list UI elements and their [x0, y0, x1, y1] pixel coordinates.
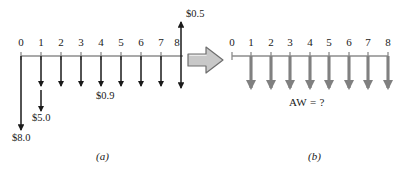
tick-label-a-5: 5	[114, 36, 128, 48]
tick-label-b-3: 3	[283, 36, 297, 48]
tick-label-b-8: 8	[381, 36, 395, 48]
tick-label-b-1: 1	[244, 36, 258, 48]
amount-label-0-5: $0.5	[186, 8, 204, 20]
tick-label-b-2: 2	[264, 36, 278, 48]
panel-a-graphic	[0, 0, 200, 172]
amount-label-5-0: $5.0	[32, 112, 50, 124]
tick-label-b-4: 4	[303, 36, 317, 48]
cashflow-arrows-uniform-a	[61, 56, 161, 86]
tick-label-a-0: 0	[14, 36, 28, 48]
tick-label-a-6: 6	[134, 36, 148, 48]
cash-flow-figure: 0 1 2 3 4 5 6 7 8 $8.0 $5.0 $0.9 $0.5 (a…	[0, 0, 410, 172]
aw-unknown-label: AW = ?	[289, 96, 325, 108]
tick-label-b-7: 7	[361, 36, 375, 48]
aw-arrows-b	[251, 56, 388, 88]
caption-b: (b)	[308, 150, 321, 162]
tick-label-b-0: 0	[225, 36, 239, 48]
tick-label-b-6: 6	[342, 36, 356, 48]
caption-a: (a)	[96, 150, 109, 162]
tick-label-a-3: 3	[74, 36, 88, 48]
tick-label-a-8: 8	[170, 36, 184, 48]
tick-label-a-2: 2	[54, 36, 68, 48]
panel-b: 0 1 2 3 4 5 6 7 8 AW = ? (b)	[225, 0, 410, 172]
transform-block-arrow-icon	[186, 44, 226, 76]
panel-b-graphic	[225, 0, 410, 172]
amount-label-8-0: $8.0	[12, 132, 30, 144]
tick-label-b-5: 5	[322, 36, 336, 48]
panel-a: 0 1 2 3 4 5 6 7 8 $8.0 $5.0 $0.9 $0.5 (a…	[0, 0, 200, 172]
amount-label-0-9: $0.9	[96, 90, 114, 102]
tick-label-a-4: 4	[94, 36, 108, 48]
tick-label-a-7: 7	[154, 36, 168, 48]
tick-label-a-1: 1	[34, 36, 48, 48]
